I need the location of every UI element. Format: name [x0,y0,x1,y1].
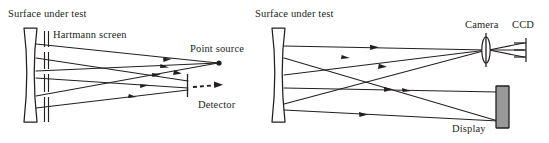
diagram-canvas: Surface under test Hartmann screen [0,0,549,143]
optical-diagram-figure: Surface under test Hartmann screen [0,0,549,143]
camera-lens [482,33,490,67]
right-rays-from-display [284,58,498,121]
display-panel [496,86,509,128]
left-panel: Surface under test Hartmann screen [8,8,244,122]
ccd-sensor [514,38,526,62]
ccd-label: CCD [512,19,534,30]
left-point-source-dot [216,60,221,65]
left-concave-mirror [24,28,37,122]
left-point-source-label: Point source [190,43,244,54]
right-surface-under-test-label: Surface under test [255,8,334,19]
right-rays-to-camera [284,45,487,104]
left-ray-arrow-e [140,84,149,88]
left-hartmann-screen-label: Hartmann screen [53,29,127,40]
camera-label: Camera [465,19,499,30]
left-surface-under-test-label: Surface under test [8,8,87,19]
left-ray-arrow-b [160,64,169,68]
left-detector-dashed-arrow [214,82,223,89]
right-ray-arrow-b [341,55,350,59]
right-ray-arrow-c [378,64,387,69]
right-ray-arrow-a [370,45,379,50]
left-detector-label: Detector [198,99,236,110]
display-label: Display [452,123,486,134]
right-concave-mirror [272,28,285,122]
right-panel: Surface under test [255,8,534,134]
right-ray-arrow-e [384,87,393,92]
right-ray-arrow-f [359,112,368,117]
